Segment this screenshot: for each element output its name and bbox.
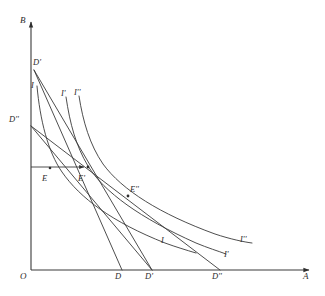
indifference-curve-I-prime xyxy=(66,97,226,254)
indifference-curve-I-double-prime-right-label: I'' xyxy=(240,235,246,244)
point-E-prime-label: E' xyxy=(78,174,85,183)
point-E-double-prime-dot xyxy=(127,195,130,198)
point-E-dot xyxy=(49,167,52,170)
point-E-double-prime-label: E'' xyxy=(130,185,139,194)
budget-line-D-double-prime-label: D'' xyxy=(9,115,19,124)
point-E-label: E xyxy=(42,174,47,183)
horizontal-axis-label: A xyxy=(303,272,309,281)
x-intercept-label-D: D xyxy=(115,272,121,281)
budget-line-D-prime-label: D' xyxy=(33,58,41,67)
indifference-curve-I-prime-right-label: I' xyxy=(224,250,229,259)
indifference-curve-I-double-prime xyxy=(79,96,252,243)
indifference-curve-I-double-prime-top-label: I'' xyxy=(74,88,80,97)
indifference-curve-I-top-label: I xyxy=(31,81,34,90)
point-E-prime-dot xyxy=(87,166,90,169)
diagram-canvas xyxy=(0,0,325,296)
origin-label: O xyxy=(20,272,27,281)
vertical-axis-label: B xyxy=(20,16,26,25)
indifference-curve-I-right-label: I xyxy=(161,236,164,245)
budget-line-D-double-prime xyxy=(31,126,220,270)
indifference-curve-I-prime-top-label: I' xyxy=(61,89,66,98)
budget-line-D-prime xyxy=(34,70,122,270)
x-intercept-label-D-double-prime: D'' xyxy=(212,272,222,281)
indifference-curve-figure: B A O D' D'' D D' D'' I I' I'' I I' I'' … xyxy=(0,0,325,296)
x-intercept-label-D-prime: D' xyxy=(145,272,153,281)
budget-line-D-prime-to-Dp xyxy=(34,70,152,270)
